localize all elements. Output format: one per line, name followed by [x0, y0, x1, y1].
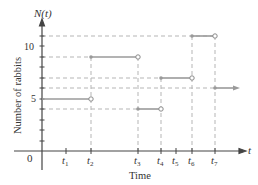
open-circles: [89, 34, 217, 111]
y-axis-label: Number of rabbits: [12, 57, 23, 134]
vertical-guide-lines: [91, 36, 215, 151]
y-axis-arrow-icon: [40, 19, 45, 26]
y-axis-title: N(t): [33, 7, 52, 20]
horizontal-guide-lines: [42, 36, 215, 109]
axes: [14, 19, 246, 170]
x-axis-label: Time: [129, 170, 151, 181]
closed-dots: [89, 34, 217, 111]
x-tick-label-t4: t4: [157, 155, 164, 168]
x-axis-symbol: t: [248, 144, 252, 156]
y-tick-label-5: 5: [31, 93, 36, 104]
step-chart: N(t) t 0 10 5 Number of rabbits Time t1 …: [0, 0, 258, 185]
x-tick-label-t7: t7: [211, 155, 218, 168]
x-axis-arrow-icon: [239, 149, 246, 154]
x-tick-label-t2: t2: [87, 155, 94, 168]
x-tick-label-t1: t1: [62, 155, 69, 168]
x-tick-label-t5: t5: [172, 155, 179, 168]
origin-label: 0: [27, 152, 33, 164]
x-tick-label-t3: t3: [134, 155, 141, 168]
y-tick-label-10: 10: [24, 41, 34, 52]
x-tick-label-t6: t6: [188, 155, 195, 168]
step-arrow-icon: [233, 86, 240, 91]
x-tick-labels: t1 t2 t3 t4 t5 t6 t7: [62, 155, 218, 168]
